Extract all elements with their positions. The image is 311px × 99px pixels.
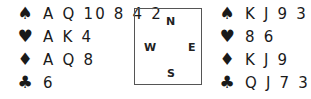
east-clubs-row: ♣ Q J 7 3 xyxy=(218,71,310,94)
club-icon: ♣ xyxy=(16,74,34,91)
compass-east: E xyxy=(188,41,196,54)
east-spades-row: ♠ K J 9 3 xyxy=(218,2,310,25)
east-spades-cards: K J 9 3 xyxy=(245,5,308,23)
spade-icon: ♠ xyxy=(218,5,236,22)
east-hearts-cards: 8 6 xyxy=(245,28,275,46)
west-clubs-cards: 6 xyxy=(43,74,55,92)
east-diamonds-row: ♦ K J 9 xyxy=(218,48,310,71)
spade-icon: ♠ xyxy=(16,5,34,22)
compass-west: W xyxy=(144,41,156,54)
west-diamonds-cards: A Q 8 xyxy=(43,51,95,69)
diamond-icon: ♦ xyxy=(218,51,236,68)
heart-icon: ♥ xyxy=(218,28,236,45)
compass-north: N xyxy=(166,15,175,28)
compass-box: N W E S xyxy=(134,8,202,85)
east-hearts-row: ♥ 8 6 xyxy=(218,25,310,48)
club-icon: ♣ xyxy=(218,74,236,91)
east-clubs-cards: Q J 7 3 xyxy=(245,74,310,92)
west-hearts-cards: A K 4 xyxy=(43,28,93,46)
east-diamonds-cards: K J 9 xyxy=(245,51,289,69)
heart-icon: ♥ xyxy=(16,28,34,45)
east-hand: ♠ K J 9 3 ♥ 8 6 ♦ K J 9 ♣ Q J 7 3 xyxy=(218,2,310,94)
diamond-icon: ♦ xyxy=(16,51,34,68)
compass-south: S xyxy=(167,67,175,80)
